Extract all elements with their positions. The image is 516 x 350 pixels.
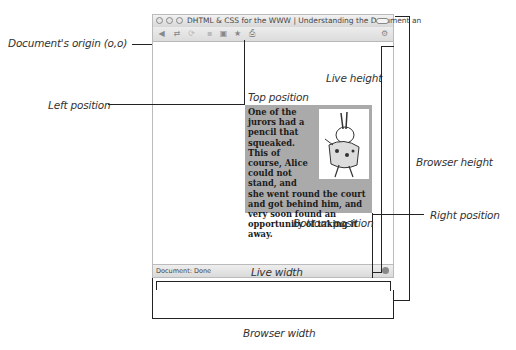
home-icon[interactable]: ▣ [219, 29, 228, 38]
browser-width-right [393, 290, 394, 319]
back-icon[interactable]: ◀ [157, 29, 166, 38]
live-height-line [381, 46, 382, 272]
browser-height-line [409, 16, 410, 301]
status-text: Document: Done [156, 267, 211, 275]
live-height-top [381, 46, 394, 47]
browser-height-bottom [393, 300, 410, 301]
print-icon[interactable]: ⎙ [247, 29, 256, 38]
live-height-bottom [373, 272, 382, 273]
right-position-connector [372, 214, 424, 215]
live-height-label: Live height [326, 72, 382, 84]
browser-height-top [395, 16, 410, 17]
browser-width-label: Browser width [243, 327, 315, 339]
browser-height-label: Browser height [416, 156, 493, 168]
close-button[interactable] [156, 17, 163, 24]
zoom-button[interactable] [176, 17, 183, 24]
live-width-right [390, 281, 391, 291]
stop-icon[interactable]: ▪ [205, 29, 214, 38]
live-width-label: Live width [251, 266, 303, 278]
top-position-label: Top position [248, 91, 309, 103]
toolbar: ◀ ⇄ ⟳ ▪ ▣ ★ ⎙ ⚙ [153, 27, 393, 42]
white-rabbit-image [319, 109, 369, 179]
bottom-position-label: Bottom position [293, 217, 373, 229]
forward-icon[interactable]: ⇄ [171, 29, 183, 38]
browser-width-line [152, 318, 394, 319]
browser-width-left [152, 278, 153, 319]
top-position-line [244, 40, 245, 105]
live-width-left [156, 281, 157, 290]
globe-icon [382, 267, 389, 274]
live-width-line [156, 281, 391, 282]
right-position-label: Right position [430, 209, 500, 221]
minimize-button[interactable] [166, 17, 173, 24]
left-position-line [108, 104, 245, 105]
toolbar-toggle-button[interactable] [376, 18, 389, 24]
activity-icon: ⚙ [380, 29, 389, 38]
origin-line [132, 44, 152, 45]
bookmark-icon[interactable]: ★ [233, 29, 242, 38]
reload-icon[interactable]: ⟳ [187, 29, 196, 38]
origin-label: Document's origin (o,o) [8, 37, 127, 49]
positioned-element: One of the jurors had a pencil that sque… [245, 105, 372, 213]
left-position-label: Left position [48, 99, 110, 111]
